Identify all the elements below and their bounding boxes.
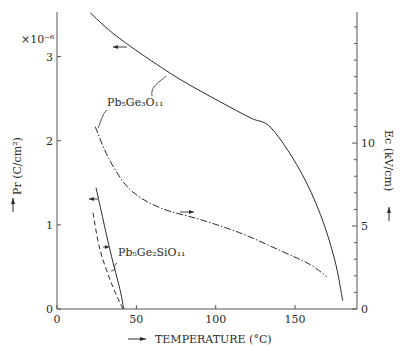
y-left-label: Pr (C/cm²) [11, 137, 24, 195]
x-tick-label: 100 [205, 313, 226, 326]
annotation-pointer-pr [152, 76, 166, 96]
x-tick-label: 0 [54, 313, 61, 326]
y-right-label: Ec (kV/cm) [382, 130, 395, 191]
chart: 05010015001230510 ×10⁻⁶ TEMPERATURE (°C)… [0, 0, 400, 351]
series-pb5ge2sio11-ec [93, 213, 123, 309]
x-axis-arrow-icon [128, 337, 146, 341]
annotation-pointer-ec [98, 110, 107, 128]
y-left-arrow-icon [11, 198, 15, 212]
y-left-tick-label: 0 [46, 303, 53, 316]
left-multiplier: ×10⁻⁶ [21, 33, 55, 46]
y-left-tick-label: 3 [46, 51, 53, 64]
y-right-arrow-icon [387, 207, 391, 221]
curves [90, 13, 342, 309]
annotation-pb5ge2sio11: Pb₅Ge₂SiO₁₁ [118, 246, 185, 259]
direction-arrow-pr-left-icon [113, 45, 127, 49]
x-tick-label: 50 [129, 313, 143, 326]
direction-arrow-si-pr-left-icon [89, 197, 98, 201]
ticks: 05010015001230510 [46, 27, 375, 326]
direction-arrow-si-ec-right-icon [103, 245, 109, 249]
x-axis-label: TEMPERATURE (°C) [155, 333, 272, 346]
y-right-tick-label: 5 [361, 220, 368, 233]
y-right-tick-label: 10 [361, 137, 375, 150]
y-left-tick-label: 2 [46, 135, 53, 148]
axes [57, 12, 357, 309]
y-left-tick-label: 1 [46, 219, 53, 232]
direction-arrow-ec-right-icon [180, 210, 194, 214]
y-right-tick-label: 0 [361, 303, 368, 316]
x-tick-label: 150 [285, 313, 306, 326]
annotation-pb5ge3o11: Pb₅Ge₃O₁₁ [107, 96, 163, 109]
